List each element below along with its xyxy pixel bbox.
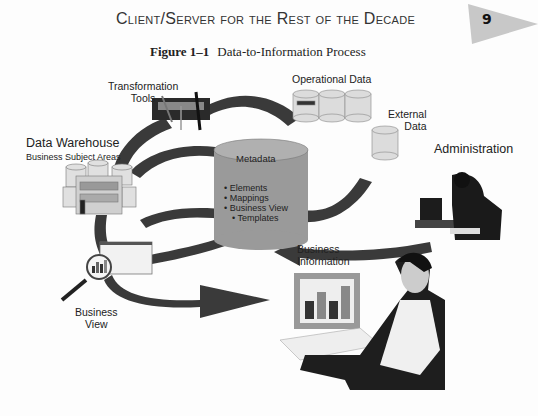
label-business-view: Business View xyxy=(75,306,118,330)
figure-title: Data-to-Information Process xyxy=(217,44,365,59)
operational-data-cylinders xyxy=(293,90,398,160)
label-subtitle: Business Subject Areas xyxy=(26,151,121,163)
arrow-view-to-information xyxy=(104,275,270,318)
metadata-list: Elements Mappings Business View Template… xyxy=(224,183,288,223)
page-badge-shape xyxy=(468,4,538,44)
label-transformation-tools: Transformation Tools xyxy=(108,80,178,104)
figure-caption: Figure 1–1Data-to-Information Process xyxy=(150,44,366,60)
metadata-item: Elements xyxy=(224,183,288,193)
running-head: Client/Server for the Rest of the Decade xyxy=(116,10,415,28)
business-information-illustration xyxy=(280,253,445,390)
administration-figure xyxy=(415,172,502,240)
data-warehouse-icon xyxy=(63,160,136,214)
label-operational-data: Operational Data xyxy=(292,73,371,85)
label-line: Data xyxy=(388,120,427,132)
metadata-item: Templates xyxy=(224,213,288,223)
label-external-data: External Data xyxy=(388,108,427,132)
label-administration: Administration xyxy=(434,142,513,156)
label-line: Business xyxy=(297,243,350,255)
figure-number: Figure 1–1 xyxy=(150,44,209,59)
label-metadata: Metadata xyxy=(236,153,276,165)
business-view-icon xyxy=(62,242,152,300)
arrow-operational-to-tools xyxy=(200,96,300,126)
label-line: Data Warehouse xyxy=(26,136,121,150)
label-data-warehouse: Data Warehouse Business Subject Areas xyxy=(26,136,121,163)
page-number: 9 xyxy=(482,11,492,27)
label-line: External xyxy=(388,108,427,120)
label-line: View xyxy=(75,318,118,330)
label-line: Tools xyxy=(108,92,178,104)
label-line: Information xyxy=(297,255,350,267)
label-line: Business xyxy=(75,306,118,318)
metadata-item: Business View xyxy=(224,203,288,213)
metadata-item: Mappings xyxy=(224,193,288,203)
label-line: Transformation xyxy=(108,80,178,92)
label-business-information: Business Information xyxy=(297,243,350,267)
